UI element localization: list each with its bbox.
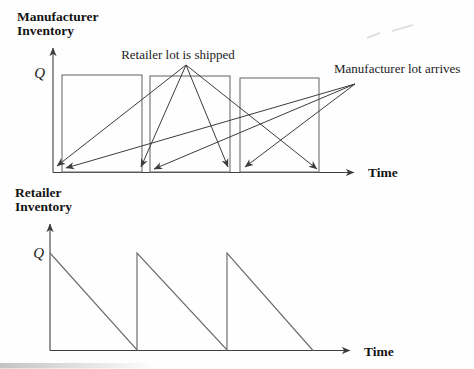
manufacturer-arrives-arrow-1 [66,84,355,168]
manufacturer-q-label: Q [34,65,45,81]
manufacturer-inventory-chart: Manufacturer Inventory Q Time Retailer l… [17,9,460,180]
retailer-shipped-arrow-3 [186,65,228,167]
scan-smudge-1 [392,25,413,31]
manufacturer-lot-rect-3 [240,78,319,172]
scan-artifact-bar [0,363,185,369]
inventory-profiles-figure: Manufacturer Inventory Q Time Retailer l… [0,0,474,369]
manufacturer-arrives-arrow-2 [154,84,355,169]
retailer-shipped-arrow-1 [57,65,186,166]
retailer-shipped-arrow-2 [141,65,186,167]
manufacturer-title-line2: Inventory [17,23,74,38]
inventory-diagram-canvas: Manufacturer Inventory Q Time Retailer l… [0,0,474,369]
retailer-shipped-arrow-4 [186,65,317,169]
manufacturer-time-label: Time [368,165,398,180]
retailer-title-line1: Retailer [15,185,61,200]
scan-smudge-2 [367,33,380,38]
manufacturer-lot-arrives-label: Manufacturer lot arrives [334,61,460,76]
retailer-sawtooth-profile [50,253,313,351]
retailer-inventory-chart: Retailer Inventory Q Time [15,185,394,359]
retailer-title-line2: Inventory [15,199,72,214]
retailer-q-label: Q [33,245,44,261]
retailer-time-label: Time [364,344,394,359]
retailer-lot-shipped-label: Retailer lot is shipped [121,47,235,62]
manufacturer-title-line1: Manufacturer [17,9,98,24]
